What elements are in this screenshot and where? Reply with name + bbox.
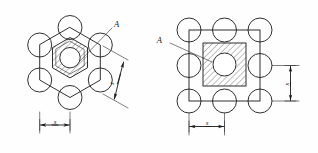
left-section-label-A: A [113, 19, 120, 29]
right-section-label-A: A [156, 35, 163, 45]
drawing-background [0, 0, 318, 153]
technical-drawing-canvas: A s s [0, 0, 318, 153]
square-centre-bore [213, 53, 236, 76]
hex-centre-bore [60, 48, 80, 68]
right-vertical-pitch-label: s [283, 82, 291, 85]
left-pitch-label: s [54, 118, 57, 126]
square-hatched-block [203, 43, 246, 86]
right-pitch-label: s [206, 119, 209, 127]
